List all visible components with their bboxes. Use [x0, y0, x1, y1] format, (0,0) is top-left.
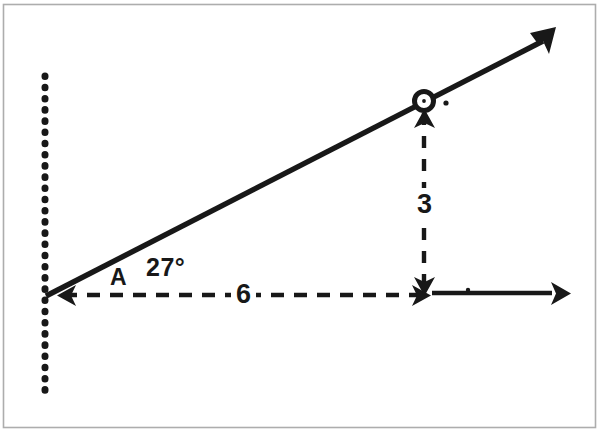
vertex-label-a: A — [110, 266, 127, 289]
axis-stray-dot-icon — [466, 288, 470, 292]
angle-ray — [46, 41, 543, 296]
angle-measure-label: 27° — [146, 255, 185, 280]
ray-arrowhead-icon — [530, 27, 556, 54]
diagram-canvas — [0, 0, 599, 432]
figure-frame — [4, 5, 596, 428]
horizontal-length-label: 6 — [231, 281, 256, 308]
geometry-figure: A 27° 6 3 — [0, 0, 599, 432]
stray-dot-icon — [443, 100, 448, 105]
horizontal-axis-arrowhead-icon — [551, 282, 571, 305]
vertical-length-label: 3 — [413, 188, 436, 221]
point-marker-center-dot-icon — [422, 99, 426, 103]
